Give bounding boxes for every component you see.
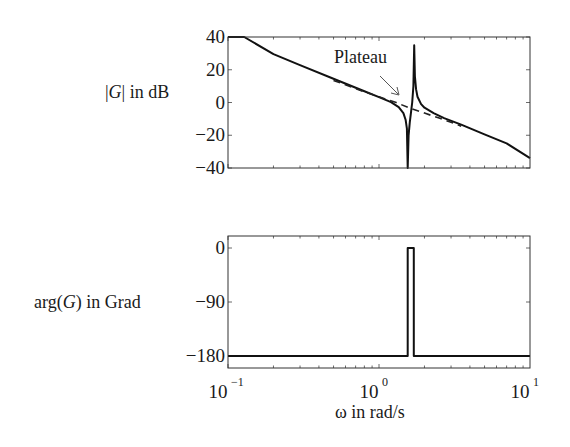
phase-ytick-label: −180 bbox=[186, 345, 225, 366]
plateau-arrow bbox=[380, 76, 398, 94]
phase-ytick-label: −90 bbox=[195, 291, 225, 312]
magnitude-ytick-label: −20 bbox=[195, 124, 225, 145]
magnitude-ytick-label: −40 bbox=[195, 157, 225, 178]
bode-plot: |G| in dB 40200−20−40 Plateau arg(G) in … bbox=[0, 0, 570, 447]
phase-xtick-label: 10 bbox=[360, 381, 379, 402]
magnitude-ytick-label: 20 bbox=[206, 59, 225, 80]
magnitude-ylabel: |G| in dB bbox=[105, 82, 169, 102]
phase-ylabel: arg(G) in Grad bbox=[34, 292, 141, 313]
phase-axes-frame bbox=[228, 236, 530, 368]
phase-panel: arg(G) in Grad 0−90−180 10−1100101 ω in … bbox=[34, 236, 539, 422]
magnitude-panel: |G| in dB 40200−20−40 Plateau bbox=[105, 26, 530, 178]
phase-xlabel: ω in rad/s bbox=[335, 402, 405, 422]
plateau-annotation: Plateau bbox=[334, 47, 387, 67]
phase-xtick-exponent: −1 bbox=[231, 375, 244, 389]
magnitude-ytick-label: 40 bbox=[206, 26, 225, 47]
phase-xtick-label: 10 bbox=[209, 381, 228, 402]
phase-line bbox=[228, 248, 530, 356]
phase-xtick-exponent: 1 bbox=[533, 375, 539, 389]
phase-xtick-label: 10 bbox=[511, 381, 530, 402]
magnitude-ytick-label: 0 bbox=[216, 92, 226, 113]
phase-xtick-exponent: 0 bbox=[382, 375, 388, 389]
phase-ytick-label: 0 bbox=[216, 237, 226, 258]
